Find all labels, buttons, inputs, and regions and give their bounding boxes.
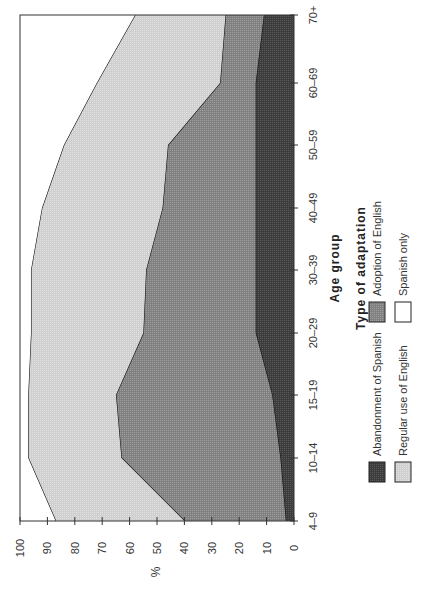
age-tick-label: 15–19 [307, 380, 319, 411]
percent-tick-label: 50 [151, 542, 163, 554]
age-tick-label: 20–29 [307, 318, 319, 349]
percent-tick-label: 20 [233, 542, 245, 554]
age-group-axis-title: Age group [328, 234, 342, 303]
legend-title: Type of adaptation [354, 206, 368, 330]
legend: Type of adaptation Abandonment of Spanis… [354, 201, 411, 482]
percent-axis-title: % [149, 566, 163, 577]
percent-tick-label: 100 [14, 539, 26, 557]
plot-areas [20, 15, 294, 521]
legend-label: Regular use of English [397, 345, 409, 456]
percent-tick-label: 70 [96, 542, 108, 554]
percent-tick-label: 30 [206, 542, 218, 554]
legend-swatch [395, 302, 411, 322]
age-tick-label: 4–9 [307, 512, 319, 530]
legend-swatch [369, 302, 385, 322]
age-tick-label: 50–59 [307, 130, 319, 161]
legend-label: Abandonment of Spanish [371, 332, 383, 456]
percent-tick-label: 0 [288, 545, 300, 551]
percent-tick-label: 10 [261, 542, 273, 554]
percent-tick-label: 90 [41, 542, 53, 554]
legend-label: Adoption of English [371, 201, 383, 296]
age-tick-label: 60–69 [307, 68, 319, 99]
stacked-area-chart: 0102030405060708090100 4–910–1415–1920–2… [0, 0, 421, 590]
age-tick-label: 70+ [307, 6, 319, 25]
age-tick-label: 10–14 [307, 443, 319, 474]
percent-tick-label: 60 [124, 542, 136, 554]
legend-swatch [395, 462, 411, 482]
percent-axis: 0102030405060708090100 [14, 517, 300, 557]
legend-swatch [369, 462, 385, 482]
legend-label: Spanish only [397, 233, 409, 296]
percent-tick-label: 40 [178, 542, 190, 554]
percent-tick-label: 80 [69, 542, 81, 554]
age-tick-label: 30–39 [307, 255, 319, 286]
age-tick-label: 40–49 [307, 193, 319, 224]
